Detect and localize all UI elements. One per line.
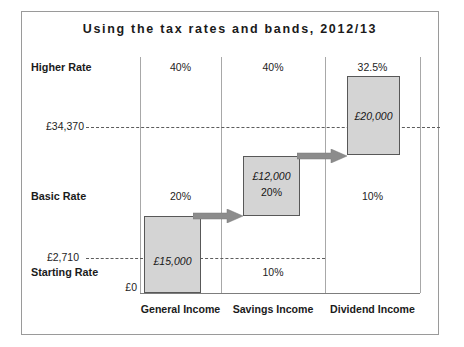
rate-dividend-higher: 32.5%	[325, 61, 420, 73]
rate-general-basic: 20%	[140, 190, 221, 202]
column-divider-2	[325, 57, 326, 293]
rate-savings-starting: 10%	[221, 266, 325, 278]
chart-title: Using the tax rates and bands, 2012/13	[21, 22, 439, 36]
gridline-2710-segment-2	[200, 258, 325, 259]
arrow-right-icon	[193, 209, 243, 223]
band-label-starting-rate: Starting Rate	[31, 266, 98, 278]
arrow-right-icon	[297, 149, 347, 163]
axis-value-34370: £34,370	[26, 120, 84, 132]
bar-savings-income: £12,000 20%	[243, 156, 300, 216]
axis-value-2710: £2,710	[26, 251, 79, 263]
band-label-basic-rate: Basic Rate	[31, 190, 86, 202]
bar-amount-savings: £12,000	[244, 170, 299, 182]
rate-savings-higher: 40%	[221, 61, 325, 73]
gridline-2710-segment-1	[86, 258, 143, 259]
category-label-general-income: General Income	[140, 303, 221, 315]
rate-general-higher: 40%	[140, 61, 221, 73]
bar-general-income: £15,000	[144, 216, 201, 293]
column-divider-right	[420, 57, 421, 293]
tax-bands-figure: Using the tax rates and bands, 2012/13 £…	[0, 0, 464, 347]
band-label-higher-rate: Higher Rate	[31, 61, 92, 73]
category-label-savings-income: Savings Income	[221, 303, 325, 315]
category-label-dividend-income: Dividend Income	[325, 303, 420, 315]
bar-amount-general: £15,000	[145, 255, 200, 267]
axis-baseline	[140, 293, 420, 294]
rate-savings-basic: 20%	[244, 186, 299, 198]
rate-dividend-basic: 10%	[325, 190, 420, 202]
bar-amount-dividend: £20,000	[348, 110, 399, 122]
axis-value-0: £0	[26, 281, 137, 293]
bar-dividend-income: £20,000	[347, 76, 400, 155]
